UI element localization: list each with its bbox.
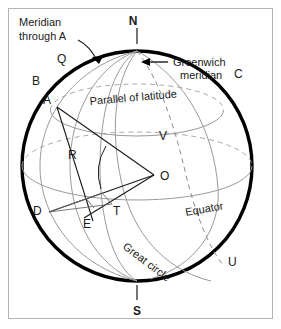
label-point-v: V: [159, 129, 167, 143]
label-south-pole: S: [133, 304, 141, 318]
label-point-e: E: [83, 217, 91, 231]
label-point-a: A: [43, 93, 51, 107]
label-meridian-through-a-line2: through A: [19, 30, 67, 42]
figure-border: [9, 9, 273, 319]
label-point-t: T: [113, 204, 121, 218]
label-greenwich-line1: Greenwich: [173, 56, 226, 68]
label-point-d: D: [33, 204, 42, 218]
label-point-r: R: [68, 148, 77, 162]
label-point-o: O: [160, 169, 169, 183]
label-greenwich-line2: meridian: [180, 69, 222, 81]
label-point-q: Q: [57, 52, 66, 66]
label-point-b: B: [32, 74, 40, 88]
label-point-c: C: [234, 67, 243, 81]
label-meridian-through-a-line1: Meridian: [19, 16, 61, 28]
label-point-u: U: [228, 255, 237, 269]
diagram-canvas: Meridian through A Greenwich meridian N …: [0, 0, 281, 329]
sphere-diagram-figure: Meridian through A Greenwich meridian N …: [0, 0, 281, 329]
label-north-pole: N: [129, 14, 138, 28]
